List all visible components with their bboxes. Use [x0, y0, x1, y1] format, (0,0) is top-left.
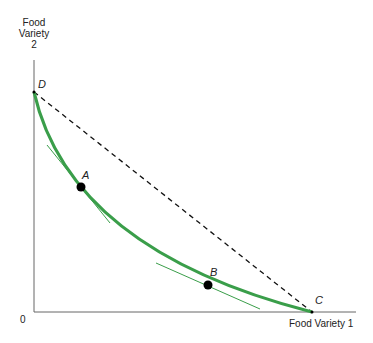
point-c-marker [311, 311, 314, 314]
x-axis-label: Food Variety 1 [289, 318, 353, 329]
y-axis-label-line3: 2 [14, 39, 54, 50]
origin-label: 0 [20, 314, 26, 325]
budget-line-dashed [34, 92, 312, 312]
y-axis-label: Food Variety 2 [14, 17, 54, 50]
y-axis-label-line1: Food [14, 17, 54, 28]
point-a-label: A [82, 169, 89, 181]
point-b-label: B [210, 266, 217, 278]
y-axis-label-line2: Variety [14, 28, 54, 39]
point-d-marker [33, 91, 36, 94]
point-d-label: D [38, 78, 46, 90]
point-a-marker [77, 183, 86, 192]
diagram-canvas [0, 0, 373, 343]
point-c-label: C [315, 294, 323, 306]
point-b-marker [204, 281, 213, 290]
